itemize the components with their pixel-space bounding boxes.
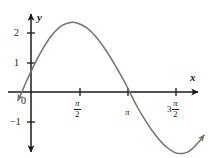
fraction-denominator: 2 (172, 110, 179, 119)
x-tick-label-pi: π (125, 102, 130, 118)
pi-symbol: π (125, 107, 130, 117)
fraction-denominator: 2 (74, 110, 81, 119)
sine-curve (18, 22, 204, 153)
fraction-numerator: π (172, 99, 179, 108)
x-axis-label: x (190, 72, 196, 83)
x-tick-label-three-pi-over-2: 3 π 2 (167, 99, 179, 120)
y-tick-label-2: 2 (14, 28, 19, 38)
origin-label: 0 (21, 96, 26, 106)
coordinate-plane (0, 0, 208, 158)
fraction-pi-over-2: π 2 (74, 99, 81, 120)
fraction-pi-over-2-right: π 2 (172, 99, 179, 120)
fraction-numerator: π (74, 99, 81, 108)
y-axis-label: y (37, 12, 42, 23)
x-tick-label-pi-over-2: π 2 (74, 99, 81, 120)
y-tick-label-neg1: −1 (10, 117, 21, 127)
y-tick-label-1: 1 (14, 58, 19, 68)
graph-figure: y x 0 2 1 −1 π 2 π 3 π 2 (0, 0, 208, 158)
